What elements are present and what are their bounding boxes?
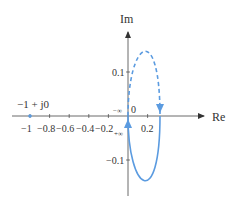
x-tick-labels: −1 −0.8 −0.6 −0.4 −0.2 0.2: [21, 123, 154, 134]
nyquist-plot: Im Re −1 −0.8 −0.6 −0.4 −0.2 0.2 0.1 −0.…: [0, 0, 239, 203]
x-tick-label: 0.2: [141, 123, 154, 134]
im-axis-label: Im: [120, 12, 134, 26]
x-tick-label: −0.2: [95, 123, 113, 134]
critical-point-label: −1 + j0: [17, 98, 49, 110]
x-tick-label: −0.4: [76, 123, 94, 134]
plus-infinity-label: +∞: [114, 130, 123, 138]
re-axis-label: Re: [212, 110, 225, 124]
minus-infinity-label: −∞: [113, 107, 122, 115]
origin-label: 0: [131, 104, 136, 115]
x-tick-label: −0.8: [37, 123, 55, 134]
critical-point: [28, 114, 32, 118]
y-tick-label: −0.1: [106, 155, 124, 166]
x-tick-label: −0.6: [56, 123, 74, 134]
arrow-down-icon: [156, 104, 164, 113]
arrow-up-icon: [124, 119, 132, 128]
x-tick-label: −1: [21, 123, 32, 134]
y-tick-label: 0.1: [112, 67, 125, 78]
